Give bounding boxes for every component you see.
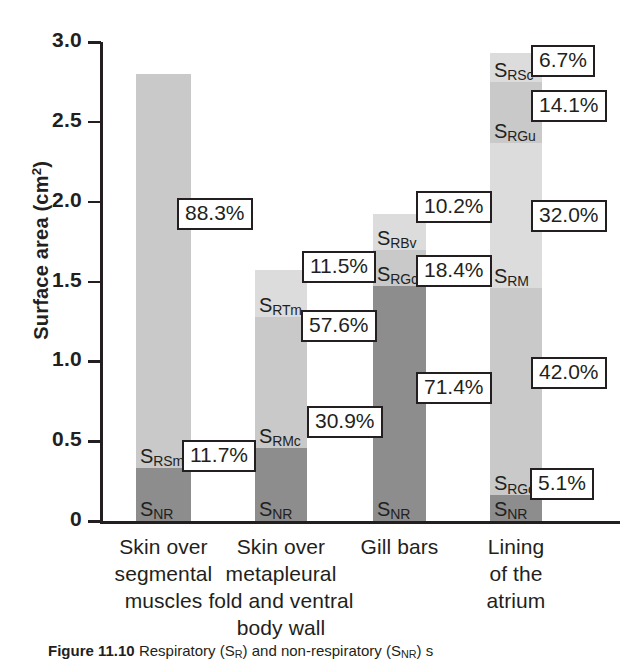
bar-segment: SNR xyxy=(373,286,426,521)
bar-segment: SNR xyxy=(136,468,191,521)
caption-text: Respiratory (S xyxy=(139,642,235,659)
percent-callout: 42.0% xyxy=(531,357,607,389)
percent-callout: 57.6% xyxy=(301,310,377,342)
y-axis-tick xyxy=(88,520,101,523)
percent-callout: 11.7% xyxy=(182,440,256,472)
bar-segment-label: SRBv xyxy=(377,228,416,248)
percent-callout: 71.4% xyxy=(416,372,492,404)
y-axis-tick-label: 0.5 xyxy=(34,427,82,451)
stacked-bar: SNRSRGoSRMSRGuSRSc xyxy=(490,79,542,521)
bar-segment: SRGo xyxy=(490,288,542,496)
bar-segment-label: SRGu xyxy=(494,121,536,141)
y-axis-tick-label: 1.0 xyxy=(34,347,82,371)
y-axis-tick xyxy=(88,440,101,443)
bar-segment-label: SRSm xyxy=(140,446,184,466)
y-axis-tick-label: 0 xyxy=(34,507,82,531)
figure-caption: Figure 11.10 Respiratory (SR) and non-re… xyxy=(48,641,608,659)
bar-segment-label: SNR xyxy=(494,499,527,519)
y-axis-line xyxy=(100,42,103,524)
category-label-line: body wall xyxy=(197,614,365,641)
bar-segment: SRSm xyxy=(136,74,191,468)
percent-callout: 14.1% xyxy=(531,90,607,122)
percent-callout: 11.5% xyxy=(302,251,376,283)
category-label-line: of the xyxy=(432,560,600,587)
y-axis-tick xyxy=(88,360,101,363)
bar-segment-label: SRMc xyxy=(259,426,301,446)
category-label-line: fold and ventral xyxy=(197,587,365,614)
y-axis-tick-label: 3.0 xyxy=(34,28,82,52)
y-axis-tick-label: 2.5 xyxy=(34,108,82,132)
percent-callout: 6.7% xyxy=(531,45,595,77)
stacked-bar: SNRSRMcSRTm xyxy=(255,272,307,521)
x-axis-line xyxy=(100,521,620,524)
percent-callout: 18.4% xyxy=(416,255,492,287)
bar-segment: SRMc xyxy=(255,317,307,448)
y-axis-tick xyxy=(88,41,101,44)
percent-callout: 88.3% xyxy=(177,198,253,230)
y-axis-tick-label: 2.0 xyxy=(34,188,82,212)
y-axis-tick xyxy=(88,121,101,124)
bar-segment-label: SNR xyxy=(259,499,292,519)
bar-segment: SNR xyxy=(255,448,307,521)
y-axis-tick-label: 1.5 xyxy=(34,268,82,292)
bar-segment-label: SNR xyxy=(140,499,173,519)
percent-callout: 10.2% xyxy=(416,191,492,223)
bar-segment-label: SNR xyxy=(377,499,410,519)
y-axis-tick xyxy=(88,201,101,204)
bar-segment-label: SRSc xyxy=(494,60,533,80)
bar-segment-label: SRM xyxy=(494,266,529,286)
category-label-line: metapleural xyxy=(197,560,365,587)
bar-segment-label: SRGc xyxy=(377,264,418,284)
bar-segment: SRTm xyxy=(255,270,307,316)
y-axis-tick xyxy=(88,281,101,284)
figure-container: Surface area (cm2) 3.02.52.01.51.00.50 S… xyxy=(0,0,638,659)
percent-callout: 30.9% xyxy=(307,406,383,438)
percent-callout: 5.1% xyxy=(530,468,594,500)
percent-callout: 32.0% xyxy=(531,200,607,232)
category-label-line: Lining xyxy=(432,533,600,560)
bar-segment-label: SRTm xyxy=(259,295,302,315)
category-label: Liningof theatrium xyxy=(432,533,600,614)
caption-figure-number: Figure 11.10 xyxy=(48,642,135,659)
category-label-line: atrium xyxy=(432,587,600,614)
